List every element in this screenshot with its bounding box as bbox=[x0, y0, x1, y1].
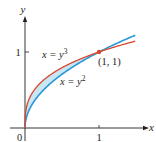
label-x-eq-y-cubed-main: x = y bbox=[41, 49, 64, 60]
label-x-eq-y-cubed: x = y3 bbox=[41, 47, 68, 60]
origin-label: 0 bbox=[17, 132, 22, 142]
chart: y x 1 1 0 x = y3 x = y2 (1, 1) bbox=[0, 0, 156, 142]
intersection-point-marker bbox=[97, 50, 101, 54]
label-x-eq-y-squared-main: x = y bbox=[59, 76, 82, 87]
y-axis-label: y bbox=[20, 3, 26, 15]
y-axis-arrow-icon bbox=[23, 16, 27, 22]
x-tick-label-1: 1 bbox=[97, 132, 102, 142]
shaded-region bbox=[25, 52, 99, 128]
label-x-eq-y-cubed-exp: 3 bbox=[64, 47, 68, 56]
label-x-eq-y-squared-exp: 2 bbox=[82, 74, 86, 83]
label-x-eq-y-squared: x = y2 bbox=[59, 74, 86, 87]
x-axis-label: x bbox=[148, 121, 154, 133]
y-tick-label-1: 1 bbox=[16, 47, 21, 58]
intersection-point-label: (1, 1) bbox=[98, 56, 121, 68]
